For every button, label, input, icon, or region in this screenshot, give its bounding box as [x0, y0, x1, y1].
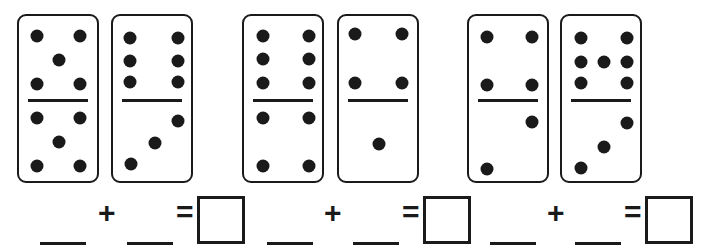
pip: [257, 30, 270, 43]
domino-6: [560, 14, 642, 183]
domino-1-top-five: [19, 16, 97, 96]
pip: [124, 76, 137, 89]
pip: [257, 112, 270, 125]
pip: [481, 79, 494, 92]
pip: [303, 53, 316, 66]
pip: [257, 53, 270, 66]
pip: [74, 78, 87, 91]
pip: [257, 160, 270, 173]
domino-1-bottom-five: [19, 101, 97, 181]
pip: [74, 112, 87, 125]
pip: [575, 77, 588, 90]
domino-6-top-seven: [562, 16, 640, 96]
domino-2-top-six: [113, 16, 191, 96]
pip: [303, 160, 316, 173]
equals-sign: =: [624, 197, 642, 227]
domino-6-bottom-three: [562, 101, 640, 181]
pip: [373, 138, 386, 151]
pip: [125, 158, 138, 171]
domino-4-bottom-one: [339, 101, 417, 181]
pip: [303, 77, 316, 90]
pip: [575, 32, 588, 45]
pip: [124, 55, 137, 68]
pip: [621, 117, 634, 130]
domino-3-bottom-four: [244, 101, 322, 181]
pip: [31, 160, 44, 173]
pip: [149, 137, 162, 150]
pip: [124, 32, 137, 45]
pip: [172, 32, 185, 45]
pip: [349, 28, 362, 41]
addend-1-blank[interactable]: [40, 242, 86, 245]
pip: [481, 31, 494, 44]
pip: [598, 56, 611, 69]
pip: [621, 32, 634, 45]
pip: [349, 77, 362, 90]
domino-3: [242, 14, 324, 183]
sum-answer-box[interactable]: [645, 196, 693, 244]
pip: [621, 77, 634, 90]
pip: [621, 56, 634, 69]
sum-answer-box[interactable]: [423, 196, 471, 244]
addend-2-blank[interactable]: [575, 242, 621, 245]
pip: [74, 30, 87, 43]
pip: [526, 116, 539, 129]
pip: [172, 115, 185, 128]
domino-5: [467, 14, 549, 183]
pip: [396, 28, 409, 41]
pip: [172, 55, 185, 68]
plus-sign: +: [324, 198, 342, 228]
pip: [303, 30, 316, 43]
pip: [526, 31, 539, 44]
pip: [575, 162, 588, 175]
pip: [257, 77, 270, 90]
pip: [53, 136, 66, 149]
pip: [31, 112, 44, 125]
addend-2-blank[interactable]: [127, 242, 173, 245]
sum-answer-box[interactable]: [197, 196, 245, 244]
domino-1: [17, 14, 99, 183]
domino-5-top-four: [469, 16, 547, 96]
addend-2-blank[interactable]: [353, 242, 399, 245]
pip: [396, 77, 409, 90]
pip: [53, 54, 66, 67]
pip: [172, 76, 185, 89]
pip: [598, 141, 611, 154]
addend-1-blank[interactable]: [490, 242, 536, 245]
pip: [31, 78, 44, 91]
pip: [481, 163, 494, 176]
pip: [526, 79, 539, 92]
pip: [575, 56, 588, 69]
plus-sign: +: [98, 198, 116, 228]
pip: [31, 30, 44, 43]
domino-3-top-six: [244, 16, 322, 96]
addend-1-blank[interactable]: [267, 242, 313, 245]
domino-5-bottom-two: [469, 101, 547, 181]
equals-sign: =: [402, 197, 420, 227]
domino-4: [337, 14, 419, 183]
pip: [303, 112, 316, 125]
pip: [74, 160, 87, 173]
plus-sign: +: [547, 198, 565, 228]
domino-4-top-four: [339, 16, 417, 96]
equals-sign: =: [176, 197, 194, 227]
domino-2: [111, 14, 193, 183]
domino-2-bottom-three: [113, 101, 191, 181]
